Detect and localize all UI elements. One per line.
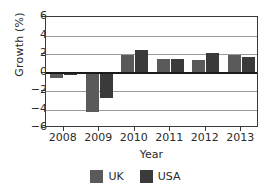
y-axis-tick-label: 4	[7, 29, 47, 40]
bar-usa-2011	[171, 59, 184, 73]
bar-chart: Growth (%) 6420−2−4−6 200820092010201120…	[0, 0, 271, 192]
legend-item-usa[interactable]: USA	[140, 170, 181, 183]
x-axis-tick-label: 2010	[114, 132, 154, 144]
x-axis-title: Year	[45, 148, 258, 161]
y-axis-tick-label: 2	[7, 47, 47, 58]
bar-uk-2009	[86, 73, 99, 113]
x-axis-tick-label: 2012	[185, 132, 225, 144]
legend-label-uk: UK	[108, 171, 123, 182]
bar-usa-2012	[206, 53, 219, 72]
chart-legend: UKUSA	[0, 170, 271, 183]
x-axis-tick-label: 2009	[78, 132, 118, 144]
plot-area	[45, 16, 258, 127]
bar-usa-2013	[242, 57, 255, 73]
legend-swatch-usa	[140, 170, 153, 183]
bar-uk-2010	[121, 55, 134, 73]
y-axis-tick-label: −4	[7, 103, 47, 114]
x-axis-tick-label: 2008	[43, 132, 83, 144]
bar-usa-2009	[100, 73, 113, 99]
y-axis-tick-label: 0	[7, 66, 47, 77]
legend-item-uk[interactable]: UK	[90, 170, 123, 183]
legend-swatch-uk	[90, 170, 103, 183]
bar-uk-2013	[228, 55, 241, 73]
x-axis-tick-label: 2011	[149, 132, 189, 144]
zero-line	[46, 72, 257, 74]
y-axis-tick-label: 6	[7, 10, 47, 21]
legend-label-usa: USA	[158, 171, 181, 182]
x-axis-tick-label: 2013	[220, 132, 260, 144]
bar-usa-2010	[135, 50, 148, 72]
y-axis-tick-label: −2	[7, 84, 47, 95]
y-axis-tick-label: −6	[7, 121, 47, 132]
bar-uk-2011	[157, 59, 170, 73]
